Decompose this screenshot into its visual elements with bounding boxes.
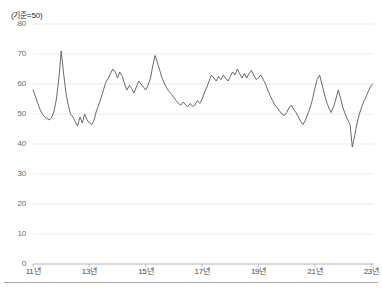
x-tick-label-13년: 13년: [72, 265, 106, 276]
y-tick-label-80: 80: [8, 19, 26, 28]
footer-divider: [4, 282, 378, 283]
x-tick-label-19년: 19년: [241, 265, 275, 276]
x-tick-label-17년: 17년: [185, 265, 219, 276]
y-tick-label-10: 10: [8, 229, 26, 238]
series-line-지수: [33, 51, 373, 147]
x-tick-label-21년: 21년: [298, 265, 332, 276]
x-tick-label-23년: 23년: [354, 265, 382, 276]
chart-figure: (기준=50) 80706050403020100 11년13년15년17년19…: [0, 0, 382, 290]
y-tick-label-50: 50: [8, 109, 26, 118]
y-tick-label-30: 30: [8, 169, 26, 178]
y-tick-label-40: 40: [8, 139, 26, 148]
line-chart-plot: [0, 0, 382, 290]
x-tick-label-15년: 15년: [129, 265, 163, 276]
y-tick-label-20: 20: [8, 199, 26, 208]
x-tick-label-11년: 11년: [16, 265, 50, 276]
gridlines-group: [33, 24, 374, 264]
y-tick-label-70: 70: [8, 49, 26, 58]
y-tick-label-60: 60: [8, 79, 26, 88]
